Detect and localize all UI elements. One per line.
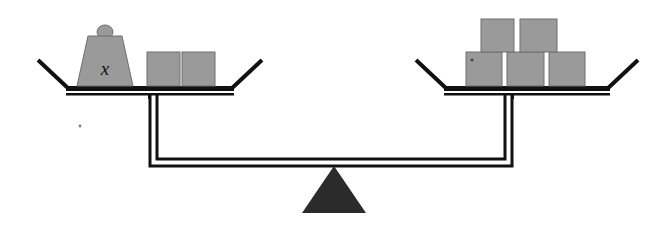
right-pan-platform [444,86,610,91]
beam-inner-line [157,92,505,159]
left-block-2 [182,52,215,86]
beam-outer-line [150,92,512,166]
balance-scale-drawing: x [0,0,662,238]
left-weight-x: x [77,25,133,86]
right-top-block-1 [481,19,514,52]
right-pan-platform-gap [444,91,610,93]
right-top-block-2 [520,19,557,52]
right-pan-platform-lower [444,93,610,96]
right-pan-arm-left [416,60,448,90]
right-pan-arm-right-highlight [602,57,634,87]
left-pan-platform-gap [66,91,234,93]
left-pan-arm-right [230,60,262,90]
right-pan-arm-right [606,60,638,90]
scan-speck-left [79,125,82,128]
left-pan-arm-left [38,60,70,90]
right-pan-stem [511,93,514,99]
right-bottom-block-1 [466,52,502,86]
fulcrum-triangle [302,166,366,213]
balance-beam [150,92,512,166]
right-pan-arm-left-highlight [420,57,452,87]
balance-scale-figure: x [0,0,662,238]
fulcrum-shape [302,166,366,213]
left-pan-stem [148,93,151,99]
right-bottom-block-3 [549,52,585,86]
right-bottom-block-2 [507,52,544,86]
scan-speck-right [470,58,473,61]
right-pan [416,19,638,99]
weight-label-x: x [100,58,110,79]
left-pan-platform [66,86,234,91]
left-block-1 [147,52,180,86]
left-pan: x [38,25,262,99]
left-pan-arm-right-highlight [226,57,258,87]
left-pan-arm-left-highlight [42,57,74,87]
